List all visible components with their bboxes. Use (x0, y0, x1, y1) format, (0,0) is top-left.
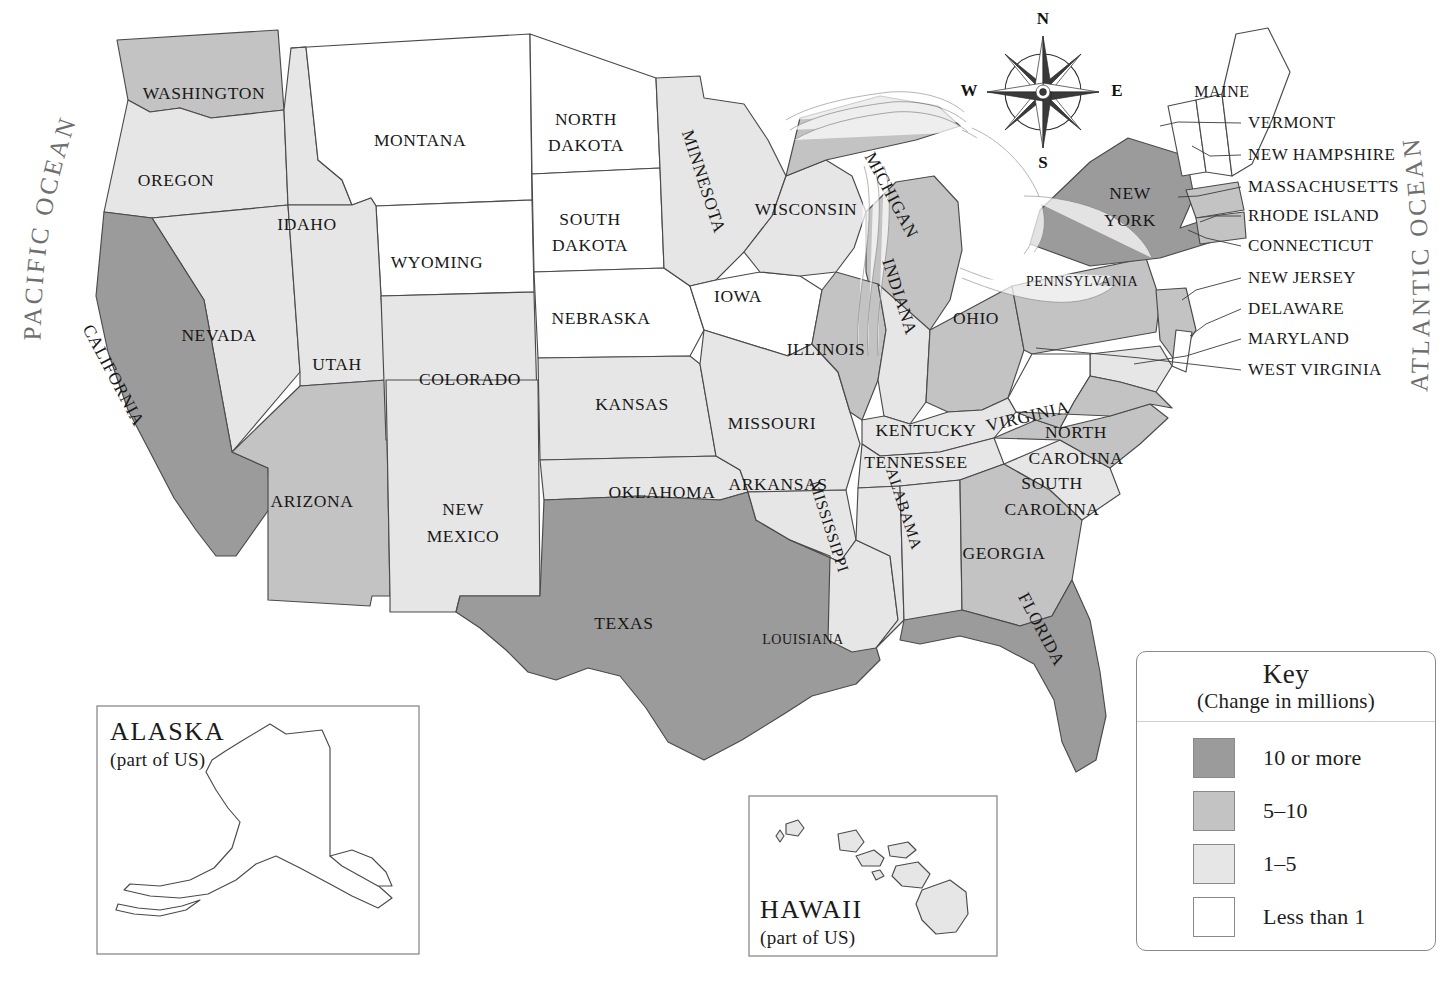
ocean-label-atlantic: ATLANTIC OCEAN (1397, 135, 1435, 393)
key-header: Key (Change in millions) (1137, 652, 1435, 722)
state-label-kansas: KANSAS (595, 394, 669, 414)
key-row-less-than-1[interactable]: Less than 1 (1137, 891, 1435, 944)
inset-subtitle-alaska: (part of US) (110, 749, 205, 771)
callout-newhampshire: NEW HAMPSHIRE (1248, 145, 1395, 164)
state-label-missouri: MISSOURI (728, 413, 816, 433)
key-rows: 10 or more 5–10 1–5 Less than 1 (1137, 722, 1435, 944)
inset-hawaii[interactable]: HAWAII (part of US) (749, 796, 997, 956)
key-row-1-5[interactable]: 1–5 (1137, 838, 1435, 891)
callout-delaware: DELAWARE (1248, 299, 1344, 318)
inset-title-hawaii: HAWAII (760, 895, 863, 924)
state-label-arizona: ARIZONA (271, 491, 354, 511)
compass-label-south: S (1038, 153, 1047, 172)
state-label-louisiana: LOUISIANA (762, 632, 844, 647)
state-label-illinois: ILLINOIS (787, 339, 866, 359)
state-label-montana: MONTANA (374, 130, 466, 150)
key-label-1-5: 1–5 (1263, 851, 1297, 877)
callout-newjersey: NEW JERSEY (1248, 268, 1356, 287)
state-label-oklahoma: OKLAHOMA (609, 482, 716, 502)
state-label-kentucky: KENTUCKY (875, 420, 976, 440)
state-label-colorado: COLORADO (419, 369, 521, 389)
state-label-ohio: OHIO (953, 308, 999, 328)
state-label-wisconsin: WISCONSIN (755, 199, 858, 219)
state-label-georgia: GEORGIA (963, 543, 1046, 563)
key-label-less-than-1: Less than 1 (1263, 904, 1365, 930)
key-swatch-5-10 (1193, 791, 1235, 831)
state-label-wyoming: WYOMING (391, 252, 484, 272)
state-shape-oregon[interactable] (104, 100, 288, 218)
key-label-10-or-more: 10 or more (1263, 745, 1362, 771)
compass-label-west: W (961, 81, 978, 100)
map-key-panel: Key (Change in millions) 10 or more 5–10… (1136, 651, 1436, 951)
callout-massachusetts: MASSACHUSETTS (1248, 177, 1399, 196)
compass-label-east: E (1111, 81, 1122, 100)
state-label-nevada: NEVADA (181, 325, 256, 345)
callout-maryland: MARYLAND (1248, 329, 1349, 348)
state-label-washington: WASHINGTON (143, 83, 265, 103)
ocean-label-pacific: PACIFIC OCEAN (19, 112, 82, 340)
state-shape-newmexico[interactable] (386, 380, 540, 612)
inset-subtitle-hawaii: (part of US) (760, 927, 855, 949)
callout-rhodeisland: RHODE ISLAND (1248, 206, 1379, 225)
key-swatch-1-5 (1193, 844, 1235, 884)
inset-title-alaska: ALASKA (110, 717, 225, 746)
callout-connecticut: CONNECTICUT (1248, 236, 1374, 255)
key-subtitle: (Change in millions) (1137, 688, 1435, 714)
key-swatch-10-or-more (1193, 738, 1235, 778)
key-row-5-10[interactable]: 5–10 (1137, 785, 1435, 838)
state-label-nebraska: NEBRASKA (551, 308, 650, 328)
state-shape-washington[interactable] (117, 30, 284, 118)
callout-vermont: VERMONT (1248, 113, 1336, 132)
map-page: WASHINGTON OREGON IDAHO MONTANA WYOMING … (0, 0, 1452, 984)
state-label-tennessee: TENNESSEE (864, 452, 968, 472)
state-shape-delaware[interactable] (1172, 330, 1192, 372)
state-label-pennsylvania: PENNSYLVANIA (1026, 274, 1139, 289)
key-title: Key (1137, 660, 1435, 688)
key-label-5-10: 5–10 (1263, 798, 1308, 824)
state-label-idaho: IDAHO (277, 214, 336, 234)
callout-westvirginia: WEST VIRGINIA (1248, 360, 1382, 379)
state-shape-wyoming[interactable] (376, 200, 534, 296)
leader-delaware (1190, 309, 1241, 336)
compass-label-north: N (1037, 9, 1050, 28)
key-swatch-less-than-1 (1193, 897, 1235, 937)
inset-alaska[interactable]: ALASKA (part of US) (97, 706, 419, 954)
key-row-10-or-more[interactable]: 10 or more (1137, 732, 1435, 785)
state-label-oregon: OREGON (138, 170, 215, 190)
state-label-maine: MAINE (1194, 83, 1249, 100)
state-label-utah: UTAH (312, 354, 362, 374)
state-label-iowa: IOWA (714, 286, 762, 306)
leader-newjersey (1182, 278, 1241, 300)
state-shape-newengland-ct-ri[interactable] (1196, 212, 1246, 244)
state-label-texas: TEXAS (594, 613, 653, 633)
